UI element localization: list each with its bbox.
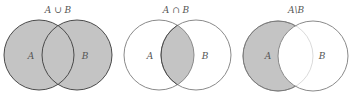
union-title: A ∪ B [44, 5, 72, 15]
intersection-label-b: B [201, 51, 209, 61]
difference-title: A\B [287, 5, 305, 15]
venn-difference: A\B A B [243, 5, 348, 91]
intersection-title: A ∩ B [162, 5, 190, 15]
venn-union: A ∪ B A B [4, 5, 112, 90]
venn-diagrams: A ∪ B A B A ∩ B A B A\B A B [0, 0, 355, 96]
difference-label-b: B [318, 51, 326, 61]
union-label-a: A [27, 51, 35, 61]
difference-label-a: A [264, 51, 272, 61]
union-label-b: B [81, 51, 89, 61]
venn-intersection: A ∩ B A B [124, 5, 231, 90]
intersection-label-a: A [146, 51, 154, 61]
